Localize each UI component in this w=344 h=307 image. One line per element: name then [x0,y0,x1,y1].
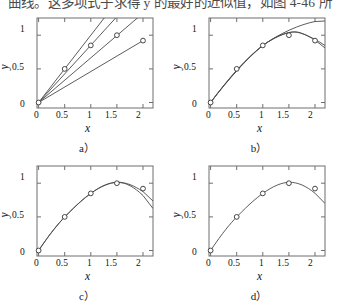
panel-c-plot [0,159,172,307]
panel-b: y 1 0.5 0 0 0.5 1 1.5 2 x b） [172,11,344,159]
panel-a: y 1 0.5 0 0 0.5 1 1.5 2 x a） [0,11,172,159]
panel-d: y 1 0.5 0 0 0.5 1 1.5 2 x d） [172,159,344,307]
panel-d-plot [172,159,344,307]
figure-4-46: y 1 0.5 0 0 0.5 1 1.5 2 x a） [0,11,344,307]
panel-a-plot [0,11,172,159]
panel-c: y 1 0.5 0 0 0.5 1 1.5 2 x c） [0,159,172,307]
panel-b-plot [172,11,344,159]
page-top-text-strip: 曲线。这多项式子求得 y 的最好的近似值，如图 4-46 所 [0,0,344,11]
page-top-text: 曲线。这多项式子求得 y 的最好的近似值，如图 4-46 所 [8,0,332,11]
